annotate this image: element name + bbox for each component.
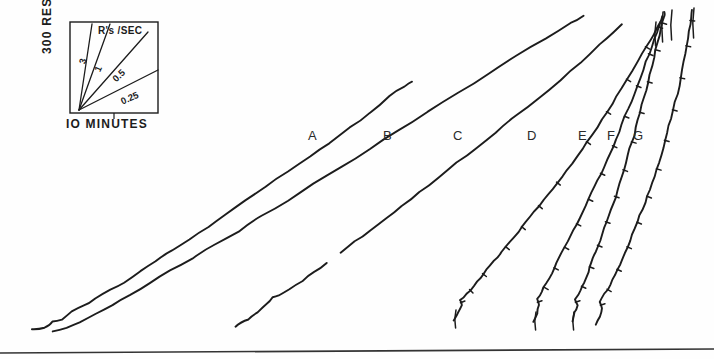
pen-reset-mark-g — [693, 8, 694, 38]
response-tick-mark — [624, 116, 628, 118]
legend-header-label: R's /SEC — [98, 25, 142, 36]
pen-reset-mark-f — [671, 10, 672, 40]
pen-reset-mark-e — [662, 12, 663, 42]
plot-canvas: 310.50.25 R's /SEC — [0, 0, 714, 359]
response-tick-mark — [647, 196, 652, 198]
cumulative-record-curve-c — [236, 263, 327, 327]
response-tick-mark — [544, 287, 548, 289]
curve-label-a: A — [308, 128, 317, 143]
cumulative-record-curve-b — [53, 16, 584, 332]
legend-rate-labels: 310.50.25 — [77, 57, 141, 106]
cumulative-record-curve-e — [533, 16, 662, 322]
legend-x-axis-label: IO MINUTES — [66, 117, 148, 131]
record-start-mark-d — [455, 310, 456, 328]
response-tick-mark — [680, 78, 685, 79]
curve-label-d: D — [527, 128, 537, 143]
curve-label-b: B — [383, 128, 392, 143]
response-tick-mark — [626, 79, 630, 81]
cumulative-record-curve-g — [596, 10, 692, 325]
record-start-mark-e — [535, 312, 536, 330]
curve-label-c: C — [453, 128, 463, 143]
response-tick-mark — [655, 50, 660, 51]
curves-group — [32, 10, 692, 332]
record-start-mark-f — [573, 312, 574, 330]
cumulative-record-figure: 310.50.25 R's /SEC 300 RESPONSES IO MINU… — [0, 0, 714, 359]
curve-label-e: E — [578, 128, 587, 143]
bottom-rule — [0, 349, 714, 353]
response-tick-mark — [686, 46, 691, 47]
legend-rate-label-0-5: 0.5 — [110, 66, 128, 84]
response-tick-mark — [588, 199, 592, 201]
legend-inset-group: 310.50.25 R's /SEC — [70, 22, 158, 119]
curve-label-g: G — [633, 128, 644, 143]
response-tick-mark — [564, 247, 568, 249]
legend-y-axis-label: 300 RESPONSES — [40, 0, 54, 54]
response-tick-mark — [506, 247, 510, 250]
legend-rate-label-0-25: 0.25 — [119, 89, 141, 107]
legend-rate-label-1: 1 — [92, 63, 104, 73]
curve-label-f: F — [607, 128, 615, 143]
